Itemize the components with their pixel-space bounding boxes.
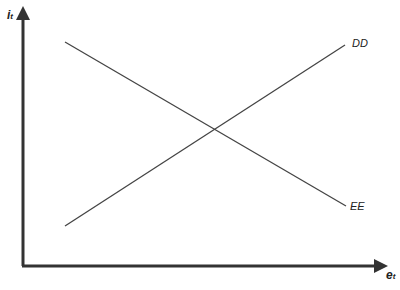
y-axis: [16, 6, 30, 266]
x-axis-label: et: [386, 268, 395, 282]
x-axis-label-main: e: [386, 268, 393, 282]
y-axis-label-sub: t: [10, 12, 13, 21]
y-axis-arrow-icon: [16, 6, 30, 20]
y-axis-label: it: [7, 8, 13, 22]
dd-label: DD: [352, 37, 368, 49]
ee-curve: [65, 42, 346, 206]
x-axis-label-sub: t: [393, 272, 396, 281]
x-axis: [22, 259, 388, 273]
ee-label: EE: [350, 200, 365, 212]
diagram-canvas: [0, 0, 400, 290]
dd-curve: [65, 45, 345, 226]
